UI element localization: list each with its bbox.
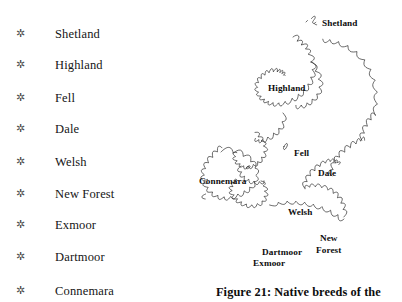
asterisk-bullet-icon: ✲ bbox=[15, 92, 26, 103]
breed-name-label: New Forest bbox=[55, 185, 114, 203]
breed-list-item: ✲Welsh bbox=[0, 153, 185, 171]
breed-name-label: Highland bbox=[55, 56, 103, 74]
breed-name-label: Fell bbox=[55, 89, 75, 107]
map-place-label: Highland bbox=[268, 83, 306, 93]
map-place-label: Dale bbox=[318, 168, 336, 178]
asterisk-bullet-icon: ✲ bbox=[15, 219, 26, 230]
breed-list: ✲Shetland✲Highland✲Fell✲Dale✲Welsh✲New F… bbox=[0, 0, 185, 302]
new-forest-line-1: New bbox=[316, 233, 341, 245]
map-place-label: Welsh bbox=[288, 207, 313, 217]
asterisk-bullet-icon: ✲ bbox=[15, 59, 26, 70]
shetland-islands-shape bbox=[306, 16, 317, 25]
map-place-label: Shetland bbox=[322, 18, 358, 28]
map-figure: Figure 21: Native breeds of the Shetland… bbox=[185, 0, 402, 302]
breed-list-item: ✲New Forest bbox=[0, 185, 185, 203]
map-place-label: Dartmoor bbox=[262, 247, 302, 257]
asterisk-bullet-icon: ✲ bbox=[15, 251, 26, 262]
breed-list-item: ✲Fell bbox=[0, 89, 185, 107]
breed-name-label: Exmoor bbox=[55, 216, 96, 234]
breed-name-label: Welsh bbox=[55, 153, 87, 171]
asterisk-bullet-icon: ✲ bbox=[15, 156, 26, 167]
asterisk-bullet-icon: ✲ bbox=[15, 188, 26, 199]
breed-list-item: ✲Connemara bbox=[0, 282, 185, 300]
great-britain-shape bbox=[229, 35, 377, 221]
map-place-label: Exmoor bbox=[253, 258, 285, 268]
britain-ireland-map-outline bbox=[185, 0, 402, 286]
breed-name-label: Shetland bbox=[55, 25, 100, 43]
map-place-label: Connemara bbox=[199, 176, 246, 186]
asterisk-bullet-icon: ✲ bbox=[15, 28, 26, 39]
breed-name-label: Dartmoor bbox=[55, 248, 105, 266]
breed-list-item: ✲Exmoor bbox=[0, 216, 185, 234]
breed-list-item: ✲Shetland bbox=[0, 25, 185, 43]
figure-caption: Figure 21: Native breeds of the bbox=[216, 285, 381, 300]
breed-list-item: ✲Dartmoor bbox=[0, 248, 185, 266]
breed-list-item: ✲Highland bbox=[0, 56, 185, 74]
asterisk-bullet-icon: ✲ bbox=[15, 285, 26, 296]
new-forest-line-2: Forest bbox=[316, 245, 341, 257]
breed-name-label: Connemara bbox=[55, 282, 114, 300]
breed-list-item: ✲Dale bbox=[0, 120, 185, 138]
map-place-label-new-forest: NewForest bbox=[316, 233, 341, 256]
map-place-label: Fell bbox=[294, 148, 309, 158]
asterisk-bullet-icon: ✲ bbox=[15, 123, 26, 134]
breed-name-label: Dale bbox=[55, 120, 79, 138]
isle-of-man-shape bbox=[283, 143, 287, 149]
